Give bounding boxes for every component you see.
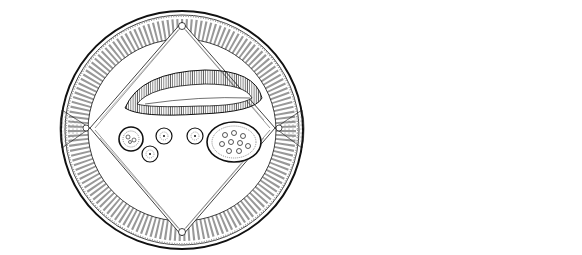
ventral-nerve-cord: [179, 229, 186, 236]
nematode-cross-section-diagram: [0, 0, 582, 255]
excretory-canal-left: [83, 125, 89, 131]
dorsal-nerve-cord: [179, 23, 186, 30]
excretory-canal-right: [276, 125, 282, 131]
